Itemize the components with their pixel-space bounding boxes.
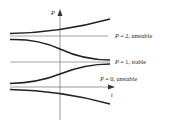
p-axis-arrow-icon: [58, 9, 63, 16]
phase-diagram: P t P = 2, unstable P = 1, stable P = 0,…: [0, 0, 175, 128]
t-axis-label: t: [111, 91, 113, 98]
t-axis-arrow-icon: [108, 85, 115, 90]
label-p1-stable: P = 1, stable: [114, 58, 146, 65]
label-p0-unstable: P = 0, unstable: [99, 75, 137, 82]
label-p2-unstable: P = 2, unstable: [114, 32, 152, 39]
p-axis-label: P: [50, 9, 55, 16]
